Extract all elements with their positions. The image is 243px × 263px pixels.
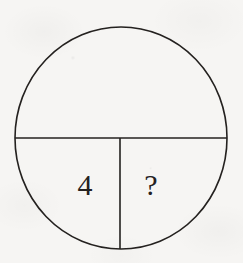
- bottom-right-quarter-label: ?: [130, 170, 172, 200]
- bottom-left-quarter-label: 4: [64, 170, 106, 200]
- diagram-canvas: [0, 0, 243, 263]
- circle-fraction-diagram: 4 ?: [0, 0, 243, 263]
